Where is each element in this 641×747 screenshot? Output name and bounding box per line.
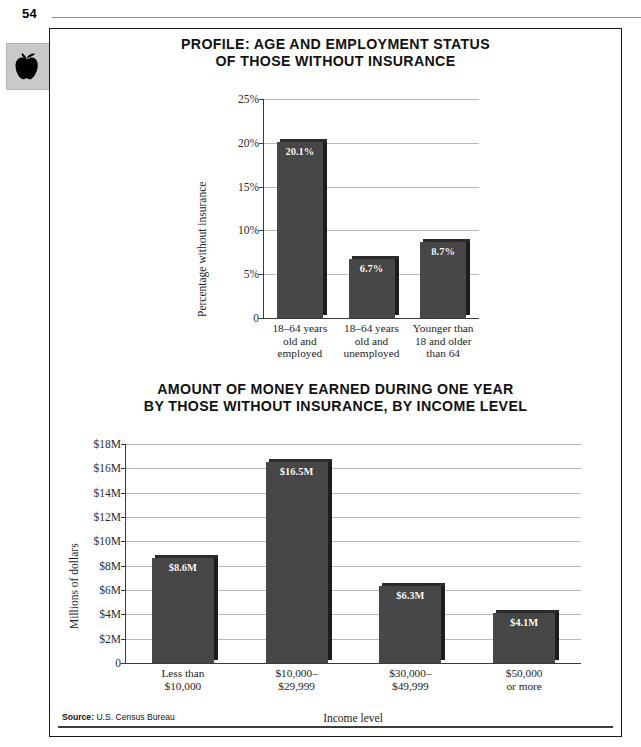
bar-face bbox=[277, 142, 323, 318]
bar-top-shadow bbox=[496, 610, 559, 613]
y-tick-label: $10M bbox=[94, 535, 121, 547]
bar-top-shadow bbox=[382, 583, 445, 586]
gridline bbox=[264, 99, 479, 100]
chart2-title: AMOUNT OF MONEY EARNED DURING ONE YEAR B… bbox=[50, 381, 621, 415]
y-tick-label: $18M bbox=[94, 438, 121, 450]
y-tick-label: $12M bbox=[94, 511, 121, 523]
chart2-y-axis-label: Millions of dollars bbox=[68, 543, 80, 629]
y-tick-label: 0 bbox=[115, 657, 121, 669]
gridline bbox=[126, 517, 581, 518]
x-category-label: Younger than 18 and older than 64 bbox=[407, 322, 479, 360]
chart2-title-line1: AMOUNT OF MONEY EARNED DURING ONE YEAR bbox=[50, 381, 621, 398]
bar-side-shadow bbox=[328, 459, 332, 660]
bar: $16.5M bbox=[266, 462, 328, 663]
chart1-title-line2: OF THOSE WITHOUT INSURANCE bbox=[50, 53, 621, 70]
x-category-label: 18–64 years old and employed bbox=[264, 322, 336, 360]
y-tick-label: $4M bbox=[99, 608, 121, 620]
chart1-title: PROFILE: AGE AND EMPLOYMENT STATUS OF TH… bbox=[50, 36, 621, 70]
y-tick-mark bbox=[259, 143, 264, 144]
bar-value-label: $4.1M bbox=[493, 617, 555, 628]
y-tick-mark bbox=[121, 493, 126, 494]
y-tick-label: 25% bbox=[238, 93, 259, 105]
source-text: U.S. Census Bureau bbox=[96, 712, 174, 722]
bar: $6.3M bbox=[379, 586, 441, 663]
gridline bbox=[126, 541, 581, 542]
bar-value-label: 8.7% bbox=[420, 246, 466, 257]
apple-icon bbox=[6, 43, 50, 90]
chart1-y-axis-label: Percentage without insurance bbox=[196, 182, 208, 317]
chart-income-level: Millions of dollars 0$2M$4M$6M$8M$10M$12… bbox=[50, 429, 623, 719]
y-tick-mark bbox=[121, 566, 126, 567]
content-frame: PROFILE: AGE AND EMPLOYMENT STATUS OF TH… bbox=[49, 28, 622, 737]
y-tick-label: 10% bbox=[238, 224, 259, 236]
bar-side-shadow bbox=[395, 256, 399, 315]
header-rule bbox=[52, 17, 641, 18]
y-tick-mark bbox=[121, 541, 126, 542]
y-tick-mark bbox=[121, 590, 126, 591]
bar-top-shadow bbox=[155, 555, 218, 558]
chart2-x-axis-label: Income level bbox=[125, 712, 581, 724]
bar-side-shadow bbox=[323, 139, 327, 315]
y-tick-mark bbox=[259, 274, 264, 275]
bar-top-shadow bbox=[280, 139, 327, 142]
bar-side-shadow bbox=[214, 555, 218, 660]
bar-side-shadow bbox=[555, 610, 559, 660]
y-tick-mark bbox=[121, 468, 126, 469]
gridline bbox=[126, 444, 581, 445]
gridline bbox=[126, 468, 581, 469]
chart2-plot-area: 0$2M$4M$6M$8M$10M$12M$14M$16M$18MLess th… bbox=[125, 444, 581, 664]
bar-side-shadow bbox=[466, 239, 470, 315]
bar: $4.1M bbox=[493, 613, 555, 663]
y-tick-mark bbox=[259, 230, 264, 231]
bar: 6.7% bbox=[349, 259, 395, 318]
bar-face bbox=[266, 462, 328, 663]
y-tick-mark bbox=[121, 639, 126, 640]
bar-value-label: $8.6M bbox=[152, 562, 214, 573]
y-tick-mark bbox=[259, 318, 264, 319]
bar-top-shadow bbox=[352, 256, 399, 259]
bar-value-label: $6.3M bbox=[379, 590, 441, 601]
chart2-title-line2: BY THOSE WITHOUT INSURANCE, BY INCOME LE… bbox=[50, 398, 621, 415]
bar-value-label: 6.7% bbox=[349, 263, 395, 274]
y-tick-mark bbox=[121, 663, 126, 664]
x-category-label: $30,000– $49,999 bbox=[354, 667, 468, 692]
source-rule bbox=[58, 726, 613, 728]
x-category-label: Less than $10,000 bbox=[126, 667, 240, 692]
y-tick-mark bbox=[121, 444, 126, 445]
x-category-label: 18–64 years old and unemployed bbox=[336, 322, 408, 360]
y-tick-mark bbox=[259, 187, 264, 188]
chart-age-employment: Percentage without insurance 05%10%15%20… bbox=[50, 89, 623, 369]
page: 54 PROFILE: AGE AND EMPLOYMENT STATUS OF… bbox=[0, 0, 641, 747]
bar-side-shadow bbox=[441, 583, 445, 660]
y-tick-label: 0 bbox=[253, 312, 259, 324]
x-category-label: $50,000 or more bbox=[467, 667, 581, 692]
y-tick-label: $16M bbox=[94, 462, 121, 474]
bar: 8.7% bbox=[420, 242, 466, 318]
y-tick-label: 15% bbox=[238, 181, 259, 193]
bar: $8.6M bbox=[152, 558, 214, 663]
bar-value-label: $16.5M bbox=[266, 466, 328, 477]
y-tick-mark bbox=[259, 99, 264, 100]
y-tick-label: $2M bbox=[99, 633, 121, 645]
bar-face bbox=[152, 558, 214, 663]
page-number: 54 bbox=[22, 6, 37, 21]
y-tick-label: 5% bbox=[244, 268, 259, 280]
gridline bbox=[126, 493, 581, 494]
source-prefix: Source: bbox=[62, 712, 94, 722]
y-tick-mark bbox=[121, 614, 126, 615]
y-tick-label: $8M bbox=[99, 560, 121, 572]
y-tick-label: 20% bbox=[238, 137, 259, 149]
y-tick-label: $6M bbox=[99, 584, 121, 596]
bar-top-shadow bbox=[269, 459, 332, 462]
x-category-label: $10,000– $29,999 bbox=[240, 667, 354, 692]
bar: 20.1% bbox=[277, 142, 323, 318]
chart1-plot-area: 05%10%15%20%25%18–64 years old and emplo… bbox=[263, 99, 479, 319]
bar-value-label: 20.1% bbox=[277, 146, 323, 157]
bar-top-shadow bbox=[423, 239, 470, 242]
source-note: Source: U.S. Census Bureau bbox=[62, 712, 175, 722]
y-tick-mark bbox=[121, 517, 126, 518]
y-tick-label: $14M bbox=[94, 487, 121, 499]
chart1-title-line1: PROFILE: AGE AND EMPLOYMENT STATUS bbox=[50, 36, 621, 53]
